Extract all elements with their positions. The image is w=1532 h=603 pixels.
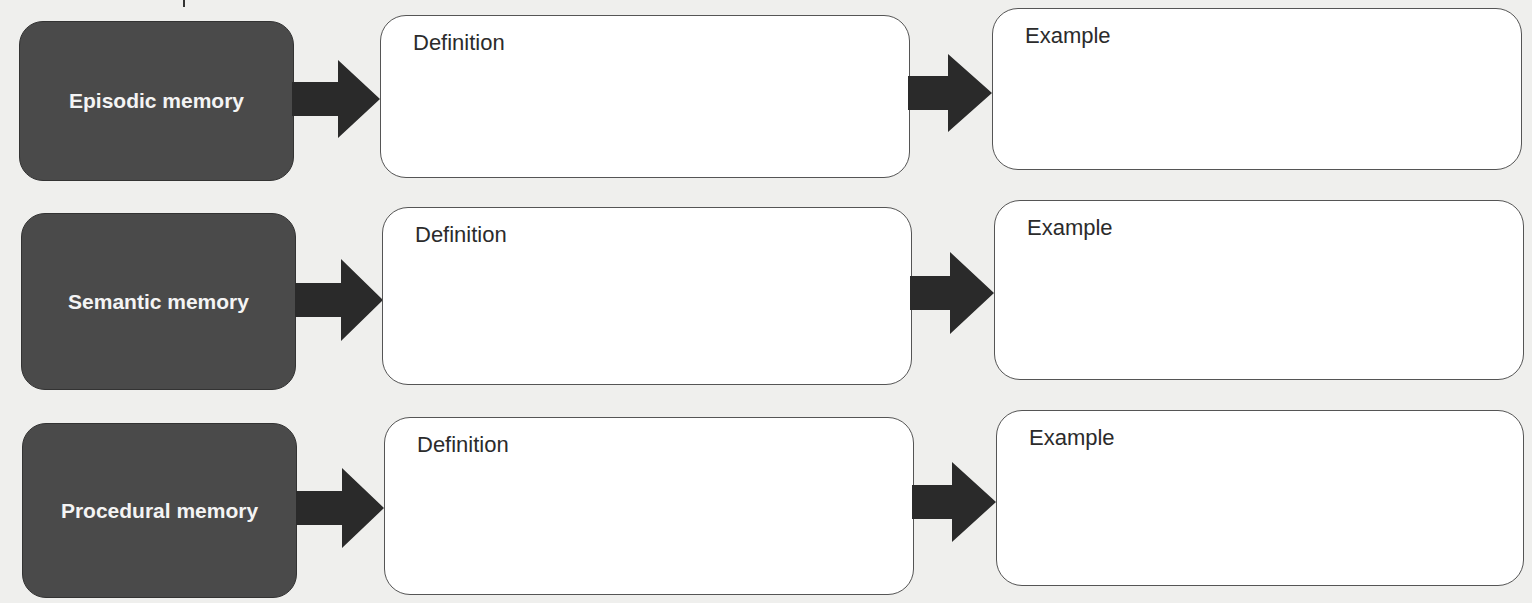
arrow-right-icon [912,462,998,542]
definition-card[interactable]: Definition [384,417,914,595]
definition-card[interactable]: Definition [382,207,912,385]
example-label: Example [1027,215,1113,241]
definition-label: Definition [413,30,505,56]
example-card[interactable]: Example [992,8,1522,170]
label-text: Procedural memory [61,499,258,523]
example-label: Example [1025,23,1111,49]
arrow-right-icon [292,60,382,138]
procedural-memory-label: Procedural memory [22,423,297,598]
arrow-right-icon [295,259,385,341]
arrow-right-icon [908,54,994,132]
definition-label: Definition [415,222,507,248]
top-tick-mark [183,0,185,7]
label-text: Semantic memory [68,290,249,314]
definition-label: Definition [417,432,509,458]
semantic-memory-label: Semantic memory [21,213,296,390]
example-card[interactable]: Example [996,410,1524,586]
arrow-right-icon [910,252,996,334]
label-text: Episodic memory [69,89,244,113]
arrow-right-icon [296,468,386,548]
example-label: Example [1029,425,1115,451]
example-card[interactable]: Example [994,200,1524,380]
definition-card[interactable]: Definition [380,15,910,178]
episodic-memory-label: Episodic memory [19,21,294,181]
